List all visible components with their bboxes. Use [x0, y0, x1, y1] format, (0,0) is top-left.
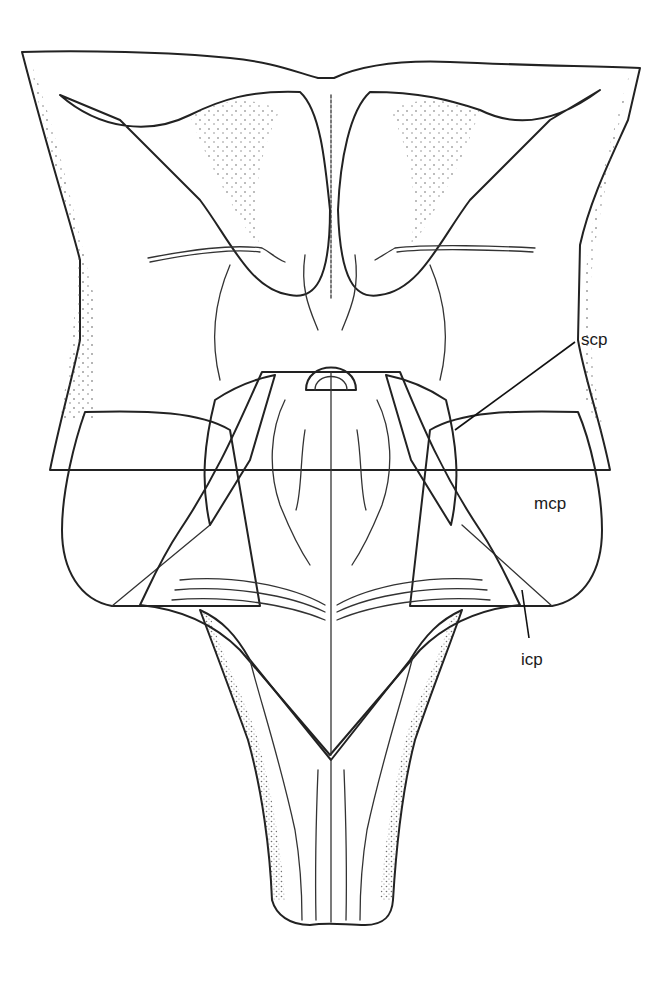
label-scp: scp [581, 331, 607, 348]
brainstem-diagram [0, 0, 661, 985]
label-mcp: mcp [534, 495, 566, 512]
fourth-ventricle-floor [140, 372, 520, 755]
scp-leader-line [455, 342, 575, 430]
tectum [215, 255, 445, 380]
label-icp: icp [521, 651, 543, 668]
superior-cerebellar-peduncle-left [205, 375, 275, 525]
pulvinar [60, 90, 600, 300]
icp-leader-line [522, 590, 529, 638]
